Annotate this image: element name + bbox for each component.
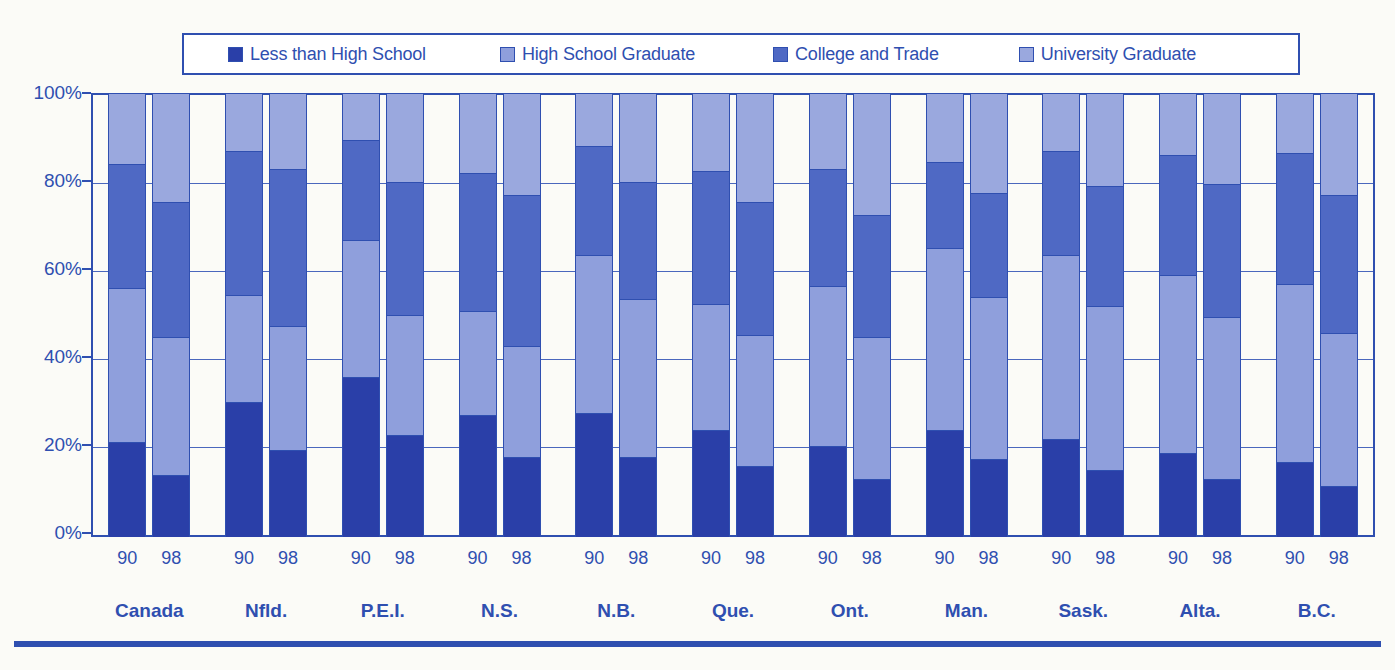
bar-segment-s2 [1042,151,1080,255]
bar-segment-s2 [225,151,263,295]
region-tick-label: Canada [91,600,208,628]
year-tick-label: 98 [853,548,891,574]
bar-segment-s1 [926,248,964,430]
year-label-group: 9098 [1258,548,1375,574]
bar-segment-s3 [1320,93,1358,195]
stacked-bar[interactable] [619,93,657,537]
square-swatch-icon [773,47,788,62]
bar-segment-s3 [809,93,847,168]
stacked-bar[interactable] [926,93,964,537]
region-tick-label: Man. [908,600,1025,628]
region-tick-label: Alta. [1142,600,1259,628]
year-label-group: 9098 [441,548,558,574]
bar-segment-s2 [575,146,613,255]
bar-segment-s2 [692,171,730,304]
bar-segment-s2 [736,202,774,335]
bar-segment-s0 [575,413,613,537]
bar-segment-s0 [225,402,263,537]
year-label-group: 9098 [791,548,908,574]
bar-group-pei [324,93,441,537]
stacked-bar[interactable] [152,93,190,537]
stacked-bar[interactable] [1042,93,1080,537]
bar-segment-s0 [970,459,1008,537]
year-tick-label: 98 [152,548,190,574]
stacked-bar[interactable] [1159,93,1197,537]
bar-segment-s3 [108,93,146,164]
bar-segment-s1 [692,304,730,431]
chart-legend: Less than High SchoolHigh School Graduat… [182,33,1300,75]
y-axis-tick-mark [82,532,91,534]
bar-segment-s0 [386,435,424,537]
year-label-group: 9098 [675,548,792,574]
bar-segment-s2 [1159,155,1197,275]
bar-segment-s1 [809,286,847,446]
bar-segment-s1 [225,295,263,402]
year-tick-label: 98 [1203,548,1241,574]
year-tick-label: 90 [1276,548,1314,574]
bar-segment-s0 [342,377,380,537]
bar-segment-s3 [1159,93,1197,155]
bar-segment-s1 [1276,284,1314,462]
stacked-bar[interactable] [970,93,1008,537]
bar-group-nb [558,93,675,537]
bar-segment-s2 [1276,153,1314,284]
stacked-bar[interactable] [1320,93,1358,537]
bar-segment-s3 [1086,93,1124,186]
y-axis-tick-mark [82,444,91,446]
stacked-bar[interactable] [503,93,541,537]
year-tick-label: 98 [736,548,774,574]
stacked-bar[interactable] [225,93,263,537]
region-tick-label: N.B. [558,600,675,628]
stacked-bar[interactable] [108,93,146,537]
bar-segment-s1 [342,240,380,378]
square-swatch-icon [1019,47,1034,62]
bar-group-bc [1258,93,1375,537]
bar-segment-s3 [386,93,424,182]
year-tick-label: 90 [926,548,964,574]
legend-item-1[interactable]: High School Graduate [500,44,695,65]
bar-segment-s2 [1203,184,1241,317]
stacked-bar[interactable] [736,93,774,537]
bar-segment-s0 [1159,453,1197,537]
y-axis-tick-label: 40% [12,346,82,368]
bar-segment-s1 [619,299,657,457]
y-axis-tick-label: 60% [12,258,82,280]
year-tick-label: 98 [269,548,307,574]
bar-segment-s1 [269,326,307,450]
stacked-bar[interactable] [269,93,307,537]
stacked-bar[interactable] [575,93,613,537]
y-axis-tick-label: 80% [12,170,82,192]
region-tick-label: B.C. [1258,600,1375,628]
bar-segment-s2 [853,215,891,337]
bar-segment-s2 [152,202,190,337]
bar-group-ont [791,93,908,537]
square-swatch-icon [228,47,243,62]
stacked-bar[interactable] [1276,93,1314,537]
legend-item-0[interactable]: Less than High School [228,44,426,65]
bar-segment-s1 [1086,306,1124,470]
legend-item-3[interactable]: University Graduate [1019,44,1196,65]
bar-segment-s1 [1320,333,1358,486]
bar-segment-s0 [853,479,891,537]
bar-segment-s0 [1042,439,1080,537]
bar-segment-s1 [853,337,891,479]
stacked-bar[interactable] [853,93,891,537]
bar-group-man [908,93,1025,537]
year-tick-label: 90 [108,548,146,574]
stacked-bar[interactable] [459,93,497,537]
bar-segment-s2 [108,164,146,288]
year-tick-label: 90 [575,548,613,574]
bar-segment-s3 [225,93,263,151]
stacked-bar[interactable] [1203,93,1241,537]
bar-segment-s1 [503,346,541,457]
bar-segment-s3 [926,93,964,162]
year-tick-label: 90 [342,548,380,574]
stacked-bar[interactable] [692,93,730,537]
bar-segment-s3 [736,93,774,202]
stacked-bar[interactable] [1086,93,1124,537]
stacked-bar[interactable] [386,93,424,537]
legend-item-2[interactable]: College and Trade [773,44,939,65]
stacked-bar[interactable] [809,93,847,537]
year-tick-label: 98 [386,548,424,574]
stacked-bar[interactable] [342,93,380,537]
